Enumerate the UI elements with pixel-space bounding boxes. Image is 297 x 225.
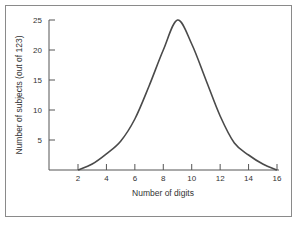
- x-tick-label: 8: [161, 174, 166, 183]
- line-chart: 246810121416510152025 Number of digits N…: [0, 0, 297, 225]
- x-tick-label: 14: [244, 174, 253, 183]
- x-tick-label: 2: [76, 174, 81, 183]
- y-tick-label: 20: [33, 46, 42, 55]
- x-tick-label: 6: [133, 174, 138, 183]
- x-tick-label: 16: [273, 174, 282, 183]
- y-tick-label: 10: [33, 106, 42, 115]
- y-axis-label: Number of subjects (out of 123): [14, 35, 24, 154]
- y-tick-label: 5: [38, 136, 43, 145]
- x-tick-label: 10: [187, 174, 196, 183]
- y-tick-label: 25: [33, 16, 42, 25]
- x-axis-label: Number of digits: [132, 188, 194, 198]
- x-tick-label: 4: [104, 174, 109, 183]
- x-tick-label: 12: [216, 174, 225, 183]
- y-tick-label: 15: [33, 76, 42, 85]
- series-line-distribution: [78, 20, 277, 170]
